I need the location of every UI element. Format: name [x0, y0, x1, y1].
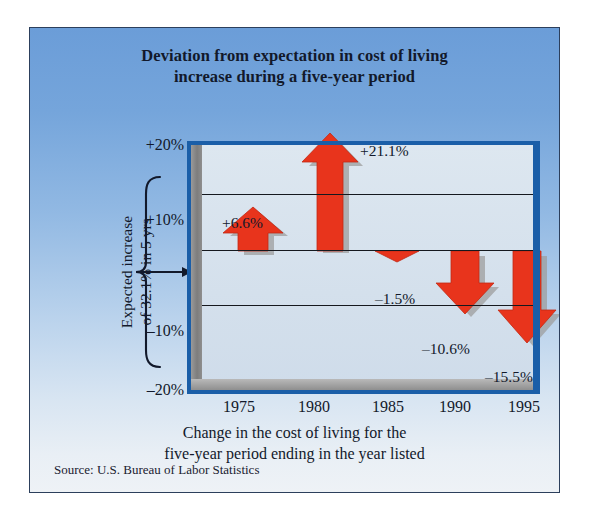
x-tick-1990: 1990: [422, 398, 488, 416]
data-label-1990: –10.6%: [422, 340, 470, 358]
y-axis-label: Expected increase of 32.1% in 5 yrs: [117, 174, 155, 370]
y-axis-label-line-1: Expected increase: [118, 216, 135, 328]
x-axis-label: Change in the cost of living for the fiv…: [30, 422, 559, 464]
data-label-1975: +6.6%: [222, 214, 263, 232]
x-tick-1975: 1975: [206, 398, 272, 416]
data-label-1985: –1.5%: [375, 290, 415, 308]
plot-area: [187, 141, 540, 394]
chart-figure: Deviation from expectation in cost of li…: [29, 27, 560, 493]
x-tick-1995: 1995: [491, 398, 557, 416]
gridline-zero: [202, 250, 533, 251]
chart-title-line-2: increase during a five-year period: [30, 66, 559, 87]
x-axis-label-line-2: five-year period ending in the year list…: [30, 443, 559, 464]
y-tick-minus-20: –20%: [114, 381, 184, 399]
data-label-1980: +21.1%: [360, 142, 409, 160]
bar-arrow-1990: [434, 250, 496, 316]
x-tick-1985: 1985: [355, 398, 421, 416]
y-tick-plus-20: +20%: [114, 136, 184, 154]
x-axis-label-line-1: Change in the cost of living for the: [183, 424, 407, 441]
chart-title: Deviation from expectation in cost of li…: [30, 45, 559, 87]
plot-wall-bottom: [191, 379, 533, 390]
gridline-minus-10: [202, 305, 533, 306]
bar-arrow-1995: [496, 250, 558, 345]
bar-arrow-1985: [372, 249, 422, 263]
chart-title-line-1: Deviation from expectation in cost of li…: [141, 46, 448, 65]
plot-surface: [202, 145, 533, 390]
bar-arrow-1980: [300, 131, 360, 253]
x-axis: 1975 1980 1985 1990 1995: [187, 398, 540, 420]
expected-increase-annotation: Expected increase of 32.1% in 5 yrs: [82, 174, 192, 370]
source-note: Source: U.S. Bureau of Labor Statistics: [54, 462, 259, 478]
gridline-plus-10: [202, 194, 533, 195]
x-tick-1980: 1980: [281, 398, 347, 416]
y-axis-label-line-2: of 32.1% in 5 yrs: [136, 174, 155, 370]
plot-wall-left: [191, 145, 202, 390]
data-label-1995: –15.5%: [485, 368, 533, 386]
